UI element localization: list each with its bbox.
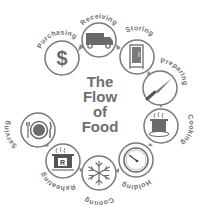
step-purchasing: $ Purchasing (36, 28, 79, 75)
step-receiving: Receiving (79, 12, 119, 57)
step-label-cooking: Cooking (179, 113, 195, 146)
title-line-4: Food (60, 119, 140, 134)
step-holding: Holding (119, 143, 153, 191)
step-label-cooling: Cooling (83, 195, 116, 205)
svg-text:Holding: Holding (120, 179, 152, 192)
svg-text:Cooking: Cooking (179, 113, 195, 146)
step-label-holding: Holding (120, 179, 152, 192)
step-serving: Serving (3, 113, 55, 150)
arrow-receiving-to-storing (116, 44, 121, 50)
step-storing: Storing (120, 24, 155, 74)
svg-text:Serving: Serving (3, 119, 18, 150)
title-line-3: of (60, 104, 140, 119)
step-cooking: Cooking (144, 109, 196, 147)
step-cooling: Cooling (82, 156, 116, 205)
arrow-cooking-to-holding (148, 143, 153, 146)
svg-text:Storing: Storing (125, 24, 156, 37)
dollar-sign-icon: $ (56, 47, 67, 69)
step-label-serving: Serving (3, 119, 18, 150)
title-line-1: The (60, 74, 140, 89)
svg-text:Cooling: Cooling (83, 195, 116, 205)
title-line-2: Flow (60, 89, 140, 104)
reheating-letter: R (60, 159, 65, 166)
step-label-storing: Storing (125, 24, 156, 37)
diagram-title: The Flow of Food (60, 74, 140, 134)
step-reheating: R Reheating (39, 144, 80, 192)
